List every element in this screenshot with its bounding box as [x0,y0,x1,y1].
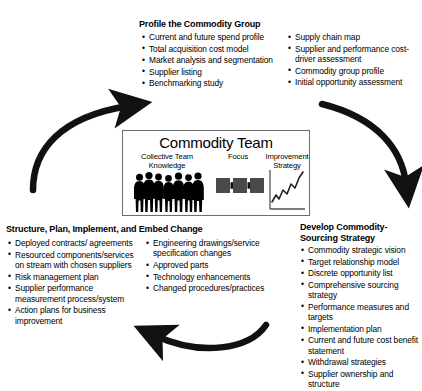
panel-label-focus: Focus [215,153,261,162]
rising-line-chart-icon [268,169,306,213]
list-item: Market analysis and segmentation [142,55,290,65]
page-title: Commodity Team [123,134,309,151]
list-item: Supplier listing [142,67,290,77]
panel-label-collective-team-knowledge: Collective Team Knowledge [130,153,204,171]
list-item: Changed procedures/practices [146,283,286,293]
curved-arrow-left-bottom [156,325,266,348]
list-item: Supplier and performance cost-driver ass… [288,44,420,65]
focus-square-3 [250,178,264,193]
structure-section-heading: Structure, Plan, Implement, and Embed Ch… [6,224,202,235]
list-item: Supplier ownership and structure [301,369,421,390]
diagram-canvas: Profile the Commodity Group Current and … [0,0,422,391]
profile-bullets-right: Supply chain map Supplier and performanc… [288,32,420,89]
commodity-team-box: Commodity Team Collective Team Knowledge… [122,130,310,216]
list-item: Commodity group profile [288,66,420,76]
curved-arrow-up-left [33,106,128,190]
list-item: Initial opportunity assessment [288,77,420,87]
list-item: Discrete opportunity list [301,268,421,278]
list-item: Withdrawal strategies [301,357,421,367]
people-group-icon [133,171,205,213]
list-item: Benchmarking study [142,78,290,88]
panel-label-improvement-strategy: Improvement Strategy [263,153,311,171]
profile-bullets-left: Current and future spend profile Total a… [142,32,290,90]
list-item: Comprehensive sourcing strategy [301,280,421,301]
list-item: Implementation plan [301,324,421,334]
list-item: Current and future spend profile [142,32,290,42]
list-item: Performance measures and targets [301,302,421,323]
structure-bullets-right: Engineering drawings/service specificati… [146,238,286,295]
list-item: Engineering drawings/service specificati… [146,238,286,259]
develop-bullets: Commodity strategic vision Target relati… [301,245,421,391]
focus-square-1 [216,178,230,193]
list-item: Commodity strategic vision [301,245,421,255]
list-item: Supply chain map [288,32,420,42]
list-item: Total acquisition cost model [142,44,290,54]
list-item: Action plans for business improvement [8,305,142,326]
list-item: Technology enhancements [146,272,286,282]
list-item: Resourced components/services on stream … [8,250,142,271]
list-item: Supplier performance measurement process… [8,283,142,304]
label-line-1: Focus [215,153,261,162]
list-item: Target relationship model [301,257,421,267]
curved-arrow-down-right [322,104,406,184]
list-item: Current and future cost benefit statemen… [301,335,421,356]
list-item: Deployed contracts/ agreements [8,238,142,248]
heading-line-2: Sourcing Strategy [300,233,418,244]
develop-section-heading: Develop Commodity- Sourcing Strategy [300,222,418,244]
squares-arrows-icon [216,175,264,199]
chart-trend-line [272,172,303,202]
focus-square-2 [233,178,247,193]
list-item: Approved parts [146,260,286,270]
heading-line-1: Develop Commodity- [300,222,418,233]
list-item: Risk management plan [8,272,142,282]
profile-section-heading: Profile the Commodity Group [139,19,260,30]
label-line-2: Knowledge [130,162,204,171]
structure-bullets-left: Deployed contracts/ agreements Resourced… [8,238,142,327]
